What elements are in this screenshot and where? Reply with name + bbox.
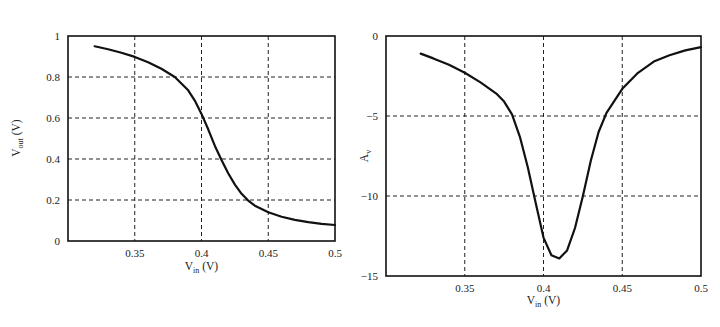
x-tick-label: 0.4 [537,282,551,294]
x-tick-label: 0.5 [694,282,708,294]
y-tick-label: 0.4 [46,153,60,165]
vout-transfer-chart: 0.350.40.450.500.20.40.60.81Vin (V)Vout … [10,30,342,275]
y-tick-label: −5 [366,110,378,122]
voltage-gain-chart: 0.350.40.450.5−15−10−50Vin (V)Av [358,30,708,309]
x-axis-label: Vin (V) [527,294,561,309]
y-tick-label: 0.6 [46,112,60,124]
y-tick-label: 0.2 [46,194,60,206]
y-tick-label: −10 [361,190,379,202]
y-tick-label: 0.8 [46,71,60,83]
x-tick-label: 0.5 [328,247,342,259]
y-axis-label: Av [358,150,373,162]
figure: 0.350.40.450.500.20.40.60.81Vin (V)Vout … [0,0,720,327]
grid [68,36,335,241]
x-tick-label: 0.4 [195,247,209,259]
x-tick-label: 0.45 [613,282,633,294]
x-tick-label: 0.35 [125,247,145,259]
y-tick-label: 0 [55,235,61,247]
series-line-vout [95,46,335,225]
x-tick-label: 0.35 [455,282,475,294]
y-tick-label: 1 [55,30,61,42]
y-tick-label: −15 [361,270,379,282]
x-axis-label: Vin (V) [185,260,219,275]
series-line-av [421,47,701,258]
y-axis-label: Vout (V) [10,119,25,157]
x-tick-label: 0.45 [259,247,279,259]
y-tick-label: 0 [373,30,379,42]
